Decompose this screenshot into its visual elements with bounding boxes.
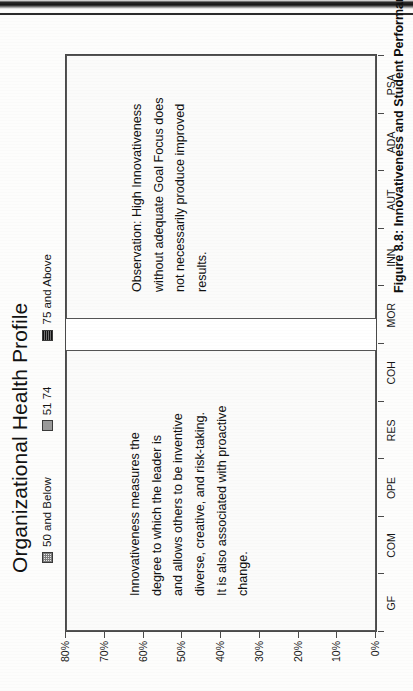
category-axis-tick bbox=[378, 170, 384, 171]
category-axis-label-mor: MOR bbox=[385, 303, 397, 328]
legend-label-0: 50 and Below bbox=[41, 477, 53, 547]
value-axis-label: 60% bbox=[137, 641, 149, 662]
legend-label-1: 51 74 bbox=[41, 387, 53, 416]
category-axis-label-gf: GF bbox=[385, 596, 397, 611]
definition-panel-text: Innovativeness measures thedegree to whi… bbox=[125, 360, 255, 596]
value-axis-label: 20% bbox=[292, 641, 304, 662]
legend-item-1: 51 74 bbox=[41, 387, 53, 432]
category-axis-tick bbox=[378, 228, 384, 229]
category-axis-tick bbox=[378, 285, 384, 286]
value-axis-tick bbox=[65, 632, 66, 638]
value-axis-label: 40% bbox=[214, 641, 226, 662]
legend-item-0: 50 and Below bbox=[41, 477, 53, 563]
value-axis-tick bbox=[104, 632, 105, 638]
legend-swatch-icon-2 bbox=[42, 330, 53, 341]
value-axis-label: 0% bbox=[369, 641, 381, 656]
annotation-line: Observation: High Innovativeness bbox=[127, 64, 149, 292]
category-axis-tick bbox=[378, 516, 384, 517]
category-axis-label-ope: OPE bbox=[385, 477, 397, 499]
legend-swatch-icon-0 bbox=[42, 552, 53, 563]
value-axis-tick bbox=[375, 632, 376, 638]
definition-panel: Innovativeness measures thedegree to whi… bbox=[66, 350, 376, 631]
annotation-line: without adequate Goal Focus does bbox=[149, 64, 171, 292]
annotation-line: change. bbox=[233, 360, 255, 596]
value-axis-label: 70% bbox=[98, 641, 110, 662]
value-axis-label: 30% bbox=[253, 641, 265, 662]
category-axis-tick bbox=[378, 573, 384, 574]
chart-title: Organizational Health Profile bbox=[8, 143, 32, 573]
figure: Organizational Health Profile 50 and Bel… bbox=[0, 0, 413, 691]
value-axis-tick bbox=[298, 632, 299, 638]
value-axis-label: 80% bbox=[59, 641, 71, 662]
value-axis-tick bbox=[220, 632, 221, 638]
legend-swatch-icon-1 bbox=[42, 420, 53, 431]
category-axis-tick bbox=[378, 343, 384, 344]
value-axis-tick bbox=[181, 632, 182, 638]
annotation-line: Innovativeness measures the bbox=[125, 360, 147, 596]
annotation-line: not necessarily produce improved bbox=[170, 64, 192, 292]
value-axis: 0%10%20%30%40%50%60%70%80% bbox=[65, 632, 377, 691]
category-axis-tick bbox=[378, 113, 384, 114]
category-axis-tick bbox=[378, 55, 384, 56]
value-axis-tick bbox=[336, 632, 337, 638]
figure-caption: Figure 8.8: Innovativeness and Student P… bbox=[392, 0, 406, 293]
annotation-line: degree to which the leader is bbox=[147, 360, 169, 596]
rotated-figure-stage: Organizational Health Profile 50 and Bel… bbox=[0, 0, 413, 691]
value-axis-tick bbox=[259, 632, 260, 638]
value-axis-label: 10% bbox=[330, 641, 342, 662]
annotation-line: and allows others to be inventive bbox=[168, 360, 190, 596]
category-axis-label-coh: COH bbox=[385, 361, 397, 384]
category-axis-label-res: RES bbox=[385, 420, 397, 442]
value-axis-label: 50% bbox=[175, 641, 187, 662]
scanned-page: Organizational Health Profile 50 and Bel… bbox=[0, 0, 413, 691]
chart-legend: 50 and Below 51 74 75 and Above bbox=[41, 254, 53, 563]
legend-item-2: 75 and Above bbox=[41, 254, 53, 340]
value-axis-tick bbox=[143, 632, 144, 638]
category-axis-label-com: COM bbox=[385, 533, 397, 558]
annotation-line: It is also associated with proactive bbox=[212, 360, 234, 596]
category-axis-tick bbox=[378, 631, 384, 632]
annotation-line: diverse, creative, and risk-taking. bbox=[190, 360, 212, 596]
category-axis-tick bbox=[378, 401, 384, 402]
legend-label-2: 75 and Above bbox=[41, 254, 53, 324]
annotation-line: results. bbox=[192, 64, 214, 292]
observation-panel: Observation: High Innovativenesswithout … bbox=[66, 55, 376, 319]
observation-panel-text: Observation: High Innovativenesswithout … bbox=[127, 64, 214, 292]
category-axis-tick bbox=[378, 458, 384, 459]
